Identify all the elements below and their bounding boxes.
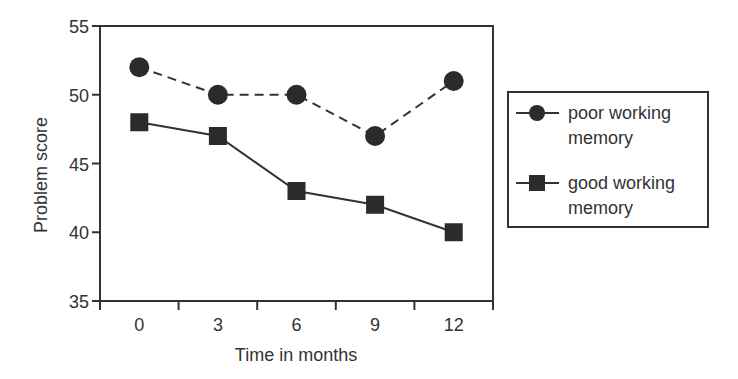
plot-frame	[100, 26, 493, 301]
circle-marker	[287, 85, 307, 105]
x-tick-label: 0	[134, 315, 144, 335]
y-tick-label: 50	[69, 86, 89, 106]
plot-border	[100, 26, 493, 301]
y-tick-label: 35	[69, 292, 89, 312]
circle-marker	[129, 57, 149, 77]
x-axis: 036912	[100, 301, 493, 335]
legend: poor workingmemorygood workingmemory	[508, 92, 708, 227]
x-axis-title: Time in months	[235, 345, 357, 365]
series-line	[139, 122, 453, 232]
square-marker	[130, 113, 148, 131]
x-tick-label: 9	[370, 315, 380, 335]
circle-marker	[208, 85, 228, 105]
legend-square-icon	[529, 175, 545, 191]
legend-label: memory	[568, 128, 633, 148]
square-marker	[366, 196, 384, 214]
y-axis: 3540455055	[69, 17, 100, 312]
legend-label: good working	[568, 173, 675, 193]
y-tick-label: 55	[69, 17, 89, 37]
legend-label: poor working	[568, 103, 671, 123]
x-tick-label: 6	[291, 315, 301, 335]
y-tick-label: 40	[69, 223, 89, 243]
square-marker	[209, 127, 227, 145]
x-tick-label: 12	[444, 315, 464, 335]
line-chart: 3540455055 036912 Time in months Problem…	[0, 0, 738, 379]
series-good-working-memory	[130, 113, 462, 241]
series-poor-working-memory	[129, 57, 463, 146]
circle-marker	[444, 71, 464, 91]
square-marker	[288, 182, 306, 200]
circle-marker	[365, 126, 385, 146]
series-layer	[129, 57, 463, 241]
y-tick-label: 45	[69, 155, 89, 175]
square-marker	[445, 223, 463, 241]
legend-circle-icon	[529, 105, 545, 121]
y-axis-title: Problem score	[31, 117, 51, 233]
legend-label: memory	[568, 198, 633, 218]
x-tick-label: 3	[213, 315, 223, 335]
